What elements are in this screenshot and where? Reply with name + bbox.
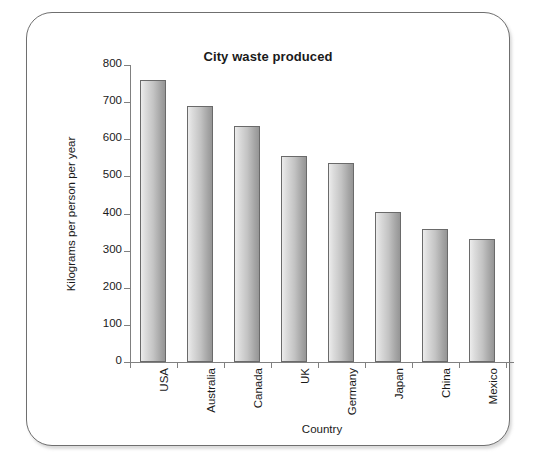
y-axis-tick — [124, 288, 130, 289]
y-axis-tick — [124, 325, 130, 326]
x-axis-tick — [318, 362, 319, 368]
plot-area: 0100200300400500600700800 USAAustraliaCa… — [130, 65, 520, 362]
x-axis-tick-label-text: China — [440, 368, 452, 398]
x-axis-line — [130, 362, 514, 363]
x-axis-tick-label: Japan — [393, 368, 405, 399]
x-axis-tick-label: China — [440, 368, 452, 398]
x-axis-tick-label-text: Germany — [346, 368, 358, 415]
bar — [375, 212, 401, 362]
x-axis-tick-label-text: Mexico — [487, 368, 499, 404]
x-axis-tick-label-text: USA — [158, 368, 170, 392]
y-axis-tick-label: 700 — [82, 94, 122, 106]
x-axis-tick-label: Australia — [205, 368, 217, 413]
x-axis-tick — [177, 362, 178, 368]
y-axis-tick-label: 600 — [82, 131, 122, 143]
bar — [140, 80, 166, 362]
x-axis-tick-label: USA — [158, 368, 170, 392]
x-axis-tick-label: Canada — [252, 368, 264, 408]
y-axis-tick-label: 300 — [82, 243, 122, 255]
bar — [328, 163, 354, 362]
x-axis-tick-label-text: Japan — [393, 368, 405, 399]
x-axis-tick — [224, 362, 225, 368]
y-axis-tick-label: 800 — [82, 57, 122, 69]
x-axis-tick-label: Mexico — [487, 368, 499, 404]
x-axis-tick-label-text: Canada — [252, 368, 264, 408]
bar — [469, 239, 495, 362]
chart-page: City waste produced Kilograms per person… — [0, 0, 539, 459]
x-axis-tick-label-text: UK — [299, 368, 311, 384]
x-axis-tick — [459, 362, 460, 368]
y-axis-tick — [124, 251, 130, 252]
x-axis-tick-label: Germany — [346, 368, 358, 415]
y-axis-tick-label: 500 — [82, 168, 122, 180]
y-axis-tick-label: 400 — [82, 206, 122, 218]
bar — [422, 229, 448, 362]
y-axis-title-text: Kilograms per person per year — [65, 136, 77, 291]
y-axis-tick — [124, 139, 130, 140]
bar — [234, 126, 260, 362]
y-axis-labels: 0100200300400500600700800 — [78, 65, 122, 362]
x-axis-tick — [130, 362, 131, 368]
chart-frame: City waste produced Kilograms per person… — [26, 12, 510, 446]
y-axis-title: Kilograms per person per year — [63, 65, 79, 362]
bar — [187, 106, 213, 362]
x-axis-tick — [506, 362, 507, 368]
bar — [281, 156, 307, 362]
bar-series — [130, 65, 520, 362]
y-axis-tick — [124, 214, 130, 215]
y-axis-tick-label: 0 — [82, 354, 122, 366]
y-axis-tick — [124, 65, 130, 66]
x-axis-tick — [365, 362, 366, 368]
x-axis-title: Country — [130, 423, 514, 435]
y-axis-tick — [124, 102, 130, 103]
y-axis-tick-label: 100 — [82, 317, 122, 329]
x-axis-tick — [412, 362, 413, 368]
x-axis-tick — [271, 362, 272, 368]
x-axis-tick-label-text: Australia — [205, 368, 217, 413]
x-axis-tick-label: UK — [299, 368, 311, 384]
y-axis-tick — [124, 176, 130, 177]
y-axis-tick-label: 200 — [82, 280, 122, 292]
